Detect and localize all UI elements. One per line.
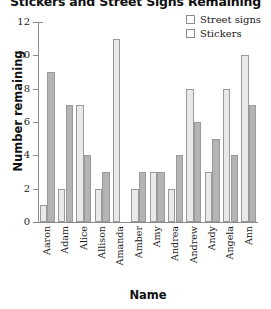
x-tick-label-wrap: Angela [221,226,239,284]
bar-group [38,22,56,222]
x-tick-label-wrap: Allison [93,226,111,284]
bar-group [166,22,184,222]
bar [47,72,54,222]
x-tick-label: Alice [79,226,89,250]
x-tick-label-wrap: Amy [148,226,166,284]
x-tick-label-wrap: Aaron [38,226,56,284]
x-tick-label: Angela [226,226,236,259]
y-axis-title: Number remaining [11,41,25,181]
x-tick-label: Amy [152,226,162,247]
bar-group [75,22,93,222]
bar [157,172,164,222]
bar [95,189,102,222]
bar [176,155,183,222]
bar [131,189,138,222]
x-tick-label-wrap: Andy [203,226,221,284]
x-axis-line [38,222,258,223]
x-tick-label-wrap: Andrea [166,226,184,284]
x-tick-label-wrap: Andrew [185,226,203,284]
bar-group [240,22,258,222]
bar-group [203,22,221,222]
bar [113,39,120,222]
y-tick-label-0: 0 [0,217,30,227]
x-tick-label-wrap: Amanda [111,226,129,284]
bar-group [148,22,166,222]
y-tick-0 [33,222,38,223]
bar [84,155,91,222]
y-tick-label-12: 12 [0,17,30,27]
x-tick-label: Aaron [42,226,52,255]
bar-group [185,22,203,222]
bar [249,105,256,222]
x-tick-label: Andrew [189,226,199,263]
bar-group [111,22,129,222]
x-tick-label-wrap: Amber [130,226,148,284]
x-tick-label: Allison [97,226,107,259]
plot-area [38,22,258,222]
x-tick-label-wrap: Ann [240,226,258,284]
bar [102,172,109,222]
bar [205,172,212,222]
bar-group [56,22,74,222]
bar [241,55,248,222]
bar [76,105,83,222]
bar-chart: Stickers and Street Signs Remaining Stre… [0,0,271,309]
bar-group [130,22,148,222]
bar [194,122,201,222]
bar [150,172,157,222]
bar [186,89,193,222]
x-tick-label-wrap: Adam [56,226,74,284]
x-tick-label: Andrea [171,226,181,261]
bar [66,105,73,222]
bar [223,89,230,222]
x-tick-label: Andy [207,226,217,250]
bar [139,172,146,222]
bar [40,205,47,222]
bar [212,139,219,222]
x-tick-label: Amber [134,226,144,258]
bar-group [221,22,239,222]
x-tick-label-wrap: Alice [75,226,93,284]
x-axis-title: Name [38,288,258,302]
bar [168,189,175,222]
x-tick-label: Amanda [116,226,126,265]
y-tick-label-2: 2 [0,184,30,194]
x-tick-label: Ann [244,226,254,245]
x-tick-label: Adam [61,226,71,254]
bar [58,189,65,222]
bar [231,155,238,222]
chart-title: Stickers and Street Signs Remaining [0,0,271,9]
bar-group [93,22,111,222]
